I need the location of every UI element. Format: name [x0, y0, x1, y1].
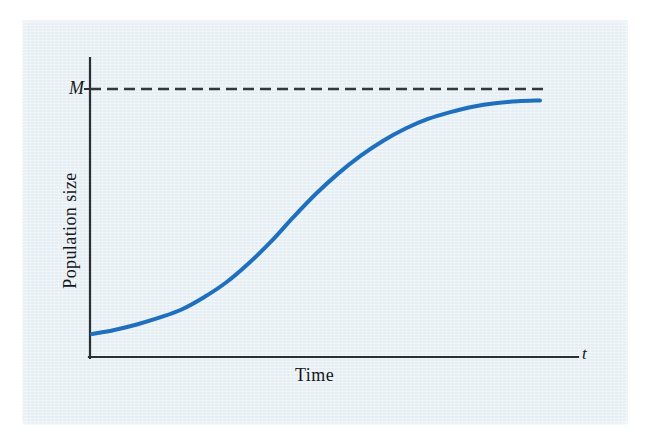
logistic-growth-curve: [92, 100, 540, 334]
carrying-capacity-label: M: [69, 78, 84, 99]
logistic-growth-figure: Population size Time t M: [0, 0, 651, 448]
x-axis-variable-label: t: [582, 344, 587, 364]
x-axis-label: Time: [295, 365, 334, 386]
